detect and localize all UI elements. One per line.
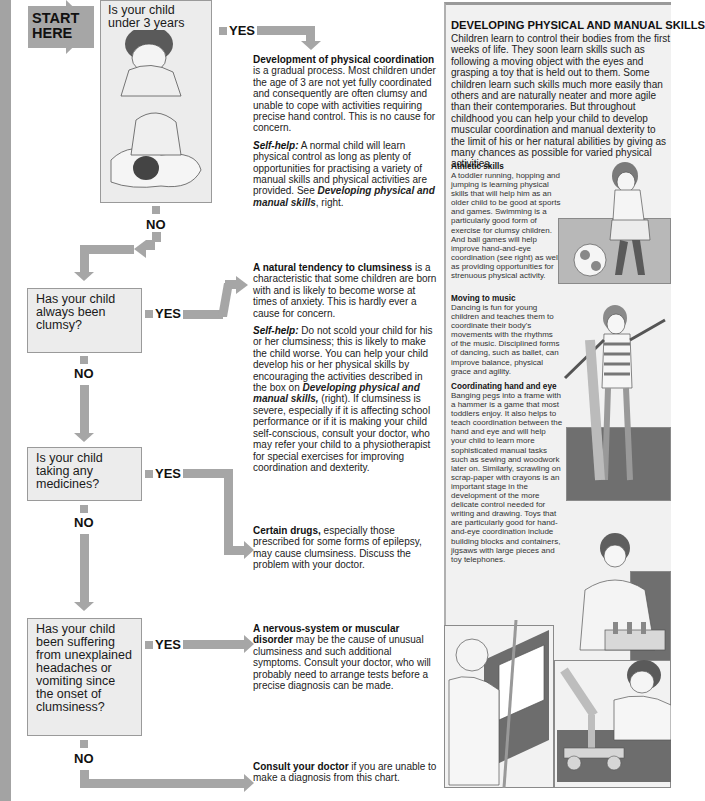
answer-1-selfhelp-tail: , right. xyxy=(316,197,344,208)
section-hand-eye: Coordinating hand and eye Banging pegs i… xyxy=(451,382,563,564)
yes-label-3: YES xyxy=(155,466,181,481)
yes-arrowhead-1 xyxy=(301,41,321,50)
answer-2-selfhelp-tail: (right). If clumsiness is severe, especi… xyxy=(253,393,430,472)
no-connector-1b xyxy=(146,240,155,250)
no-marker-1 xyxy=(152,206,160,214)
no-label-3: NO xyxy=(74,515,94,530)
no-arrowhead-3 xyxy=(74,602,94,611)
section-athletic: Athletic skills A toddler running, hoppi… xyxy=(451,162,561,280)
section-hand-eye-heading: Coordinating hand and eye xyxy=(451,382,563,391)
no-connector-2 xyxy=(80,385,89,415)
yes-connector-2 xyxy=(183,310,223,319)
question-2-box: Has your child always been clumsy? xyxy=(27,288,142,353)
section-athletic-heading: Athletic skills xyxy=(451,162,561,171)
no-label-1: NO xyxy=(146,217,166,232)
no-label-4: NO xyxy=(74,751,94,766)
no-connector-1c xyxy=(86,245,134,254)
section-athletic-body: A toddler running, hopping and jumping i… xyxy=(451,171,561,280)
yes-marker-1 xyxy=(219,27,227,35)
no-connector-2b xyxy=(80,412,89,434)
answer-2-title: A natural tendency to clumsiness xyxy=(253,262,412,273)
answer-5-text: Consult your doctor if you are unable to… xyxy=(253,761,437,790)
panel-intro: Children learn to control their bodies f… xyxy=(451,33,671,170)
question-3-text: Is your child taking any medicines? xyxy=(36,452,133,491)
no-arrowhead-1 xyxy=(134,240,146,258)
question-1-illustration xyxy=(100,30,212,102)
question-3-box: Is your child taking any medicines? xyxy=(27,447,142,501)
no-label-2: NO xyxy=(74,366,94,381)
baby-sitting-illustration xyxy=(101,30,211,100)
yes-connector-3 xyxy=(183,469,228,478)
yes-marker-2 xyxy=(145,310,153,318)
question-4-text: Has your child been suffering from unexp… xyxy=(36,623,133,714)
girl-kicking-ball-icon xyxy=(560,160,670,285)
yes-connector-2c xyxy=(225,280,237,289)
yes-arrowhead-2 xyxy=(236,276,248,294)
yes-connector-3b xyxy=(224,469,233,551)
yes-marker-4 xyxy=(145,641,153,649)
answer-4-text: A nervous-system or muscular disorder ma… xyxy=(253,623,437,697)
answer-1-selfhelp-label: Self-help: xyxy=(253,140,299,151)
toddler-hammering-icon xyxy=(565,530,671,670)
answer-1-body: is a gradual process. Most children unde… xyxy=(253,65,436,133)
no-arrowhead-1b xyxy=(74,272,94,281)
no-connector-3 xyxy=(80,534,89,604)
question-1-illustration-lower xyxy=(100,100,212,203)
section-music: Moving to music Dancing is fun for young… xyxy=(451,294,561,376)
yes-marker-3 xyxy=(145,470,153,478)
no-connector-4b xyxy=(80,779,245,788)
no-marker-3 xyxy=(80,505,88,513)
panel-title: DEVELOPING PHYSICAL AND MANUAL SKILLS xyxy=(451,19,705,31)
section-hand-eye-body: Banging pegs into a frame with a hammer … xyxy=(451,391,563,564)
yes-label-1: YES xyxy=(229,23,255,38)
no-marker-4 xyxy=(80,740,88,748)
boy-building-toy-icon xyxy=(554,660,671,788)
question-2-text: Has your child always been clumsy? xyxy=(36,293,133,332)
answer-2-selfhelp-label: Self-help: xyxy=(253,325,299,336)
yes-label-2: YES xyxy=(155,306,181,321)
no-connector-1d xyxy=(80,245,89,273)
child-drawing-easel-icon xyxy=(444,620,554,788)
no-arrowhead-2 xyxy=(74,433,94,442)
yes-label-4: YES xyxy=(155,637,181,652)
baby-legs-illustration xyxy=(101,100,211,200)
yes-connector-3c xyxy=(224,546,244,555)
answer-3-title: Certain drugs, xyxy=(253,525,321,536)
page-edge-strip xyxy=(0,0,11,801)
answer-3-text: Certain drugs, especially those prescrib… xyxy=(253,525,437,577)
start-here-label: START HERE xyxy=(28,6,94,48)
question-4-box: Has your child been suffering from unexp… xyxy=(27,618,142,736)
children-dancing-icon xyxy=(560,300,670,500)
answer-5-title: Consult your doctor xyxy=(253,761,349,772)
yes-connector-4 xyxy=(183,640,245,649)
section-music-heading: Moving to music xyxy=(451,294,561,303)
yes-connector-1b xyxy=(306,26,315,42)
answer-1-title: Development of physical coordination xyxy=(253,54,434,65)
no-marker-2 xyxy=(80,356,88,364)
answer-1-text: Development of physical coordination is … xyxy=(253,54,437,214)
answer-2-text: A natural tendency to clumsiness is a ch… xyxy=(253,262,437,479)
section-music-body: Dancing is fun for young children and te… xyxy=(451,303,561,376)
